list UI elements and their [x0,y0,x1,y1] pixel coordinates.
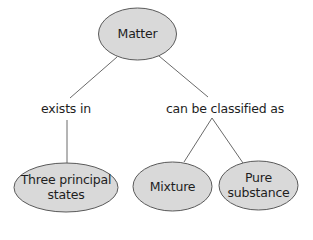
node-pure-substance-label: Pure substance [219,170,298,200]
edge-label-exists-in: exists in [36,101,96,116]
edge-classified-as-to-mixture [184,118,212,162]
node-states-label: Three principal states [14,172,118,202]
node-mixture-label: Mixture [133,179,212,194]
node-matter-label: Matter [98,26,177,41]
pure-substance-text-line2: substance [219,185,298,200]
states-text-line2: states [14,187,118,202]
states-text-line1: Three principal [14,172,118,187]
edge-matter-to-exists-in [70,57,117,98]
edge-matter-to-classified-as [159,56,208,97]
matter-text: Matter [118,26,158,41]
mixture-text: Mixture [150,179,196,194]
pure-substance-text-line1: Pure [219,170,298,185]
edge-label-can-be-classified-as: can be classified as [155,101,295,116]
edge-classified-as-to-pure-substance [212,118,243,163]
